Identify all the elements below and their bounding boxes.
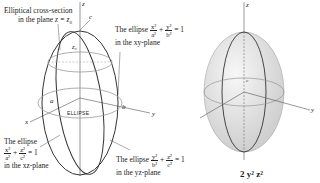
right-z-axis-label: z [246, 1, 249, 9]
y-axis [80, 98, 150, 113]
xz-ellipse-annotation: The ellipse x²a² + z²c² = 1 in the xz-pl… [4, 137, 49, 170]
c-label: c [89, 13, 92, 21]
y-axis-label: y [152, 110, 155, 118]
right-c-label: c [246, 78, 248, 83]
a-label: a [50, 97, 54, 105]
band-label-bottom: ELLIPSE [67, 110, 89, 116]
b-label: b [122, 103, 126, 111]
z-axis-label: z [82, 0, 85, 8]
right-y-axis-label: y [311, 106, 314, 114]
z0-label: z₀ [72, 43, 77, 50]
cross-section-annotation: Elliptical cross-section in the plane z … [4, 6, 73, 24]
x-axis-label: x [25, 118, 28, 126]
bottom-partial-equation: 2 y² z² [240, 170, 263, 179]
yz-ellipse-annotation: The ellipse y²b² + z²c² = 1 in the yz-pl… [116, 153, 185, 177]
right-ellipsoid [200, 2, 310, 160]
xy-ellipse-annotation: The ellipse x²a² + y²b² = 1 in the xy-pl… [115, 23, 184, 47]
